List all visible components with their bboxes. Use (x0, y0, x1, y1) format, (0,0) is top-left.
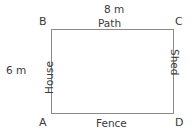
vertex-label-b: B (39, 16, 47, 27)
right-side-label-shed: Shed (170, 49, 181, 75)
rectangle-bottom-edge (51, 113, 173, 114)
bottom-side-label-fence: Fence (96, 118, 127, 129)
rectangle-top-edge (51, 29, 173, 30)
left-dimension-label: 6 m (6, 65, 26, 76)
vertex-label-a: A (39, 117, 47, 128)
top-side-label-path: Path (98, 18, 121, 29)
top-dimension-label: 8 m (104, 4, 124, 15)
vertex-label-d: D (175, 117, 183, 128)
left-side-label-house: House (44, 61, 55, 94)
vertex-label-c: C (175, 16, 183, 27)
rectangle-diagram: 8 m 6 m Path Fence House Shed B C A D (0, 0, 195, 135)
